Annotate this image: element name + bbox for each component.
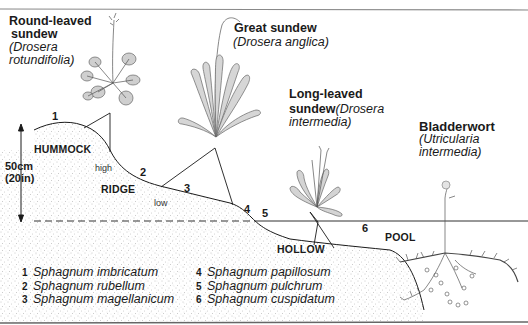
- legend-column-1: 1Sphagnum imbricatum 2Sphagnum rubellum …: [22, 266, 174, 307]
- zone-label-hummock: HUMMOCK: [34, 143, 91, 156]
- marker-3: 3: [184, 182, 190, 195]
- legend-item-1: 1Sphagnum imbricatum: [22, 266, 174, 280]
- long-leaved-sundew-label: Long-leaved sundew(Drosera intermedia): [289, 88, 384, 129]
- bottom-border: [0, 322, 528, 323]
- legend-item-3: 3Sphagnum magellanicum: [22, 293, 174, 307]
- great-sundew-latin-name: (Drosera anglica): [233, 36, 329, 49]
- legend-item-6: 6Sphagnum cuspidatum: [196, 293, 335, 307]
- round-leaved-sundew-latin-name: (Drosera rotundifolia): [9, 41, 74, 67]
- marker-6: 6: [362, 222, 368, 235]
- gradient-label-high: high: [95, 162, 112, 175]
- legend-item-4: 4Sphagnum papillosum: [196, 266, 335, 280]
- marker-2: 2: [140, 166, 146, 179]
- marker-1: 1: [52, 110, 58, 123]
- round-leaved-sundew-common-name: Round-leaved sundew: [9, 15, 92, 41]
- gradient-label-low: low: [154, 197, 168, 210]
- legend-item-2: 2Sphagnum rubellum: [22, 280, 174, 294]
- bladderwort-label: Bladderwort (Utricularia intermedia): [419, 120, 495, 159]
- great-sundew-common-name: Great sundew: [234, 22, 317, 35]
- marker-5: 5: [262, 207, 268, 220]
- zone-label-ridge: RIDGE: [101, 183, 135, 196]
- top-border: [0, 9, 528, 10]
- zone-label-hollow: HOLLOW: [277, 243, 325, 256]
- legend-item-5: 5Sphagnum pulchrum: [196, 280, 335, 294]
- scale-label: 50cm (20in): [5, 160, 34, 184]
- long-leaved-sundew-illustration: [290, 146, 342, 216]
- zone-label-pool: POOL: [385, 231, 416, 244]
- marker-4: 4: [244, 203, 250, 216]
- legend-column-2: 4Sphagnum papillosum 5Sphagnum pulchrum …: [196, 266, 335, 307]
